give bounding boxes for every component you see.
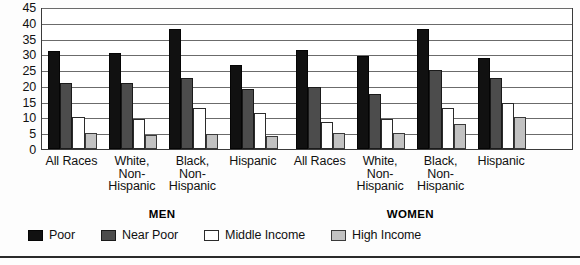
bar [254, 113, 266, 149]
category-label-line: Hispanic [152, 180, 232, 193]
plot-area [41, 8, 573, 150]
bar [393, 133, 405, 149]
bar [109, 53, 121, 149]
bar [454, 124, 466, 149]
bar [296, 50, 308, 149]
bar [478, 58, 490, 150]
bar [181, 78, 193, 149]
bar [442, 108, 454, 149]
bar [206, 134, 218, 149]
bar [333, 133, 345, 149]
legend-swatch-middle-income-icon [204, 230, 219, 241]
bar [357, 56, 369, 149]
legend-label-near-poor: Near Poor [122, 228, 178, 242]
y-axis-tick-label: 15 [10, 96, 36, 109]
y-axis-tick-label: 5 [10, 128, 36, 141]
category-label-line: Hispanic [401, 180, 481, 193]
y-axis-tick-label: 30 [10, 49, 36, 62]
bar [85, 133, 97, 149]
legend-item-middle-income: Middle Income [204, 228, 305, 242]
bar [369, 94, 381, 149]
bar [230, 65, 242, 149]
y-axis-tick-label: 10 [10, 112, 36, 125]
bar [60, 83, 72, 149]
chart-legend: Poor Near Poor Middle Income High Income [28, 228, 447, 242]
legend-label-high-income: High Income [352, 228, 421, 242]
bars-layer [42, 8, 572, 149]
bar [242, 89, 254, 149]
category-label: Hispanic [461, 155, 541, 168]
bar [417, 29, 429, 149]
bar [121, 83, 133, 149]
bar [502, 103, 514, 149]
legend-item-high-income: High Income [331, 228, 421, 242]
bar [514, 117, 526, 149]
bar [133, 119, 145, 149]
legend-item-poor: Poor [28, 228, 75, 242]
bar-chart-figure: 051015202530354045 All RacesWhite,Non-Hi… [0, 0, 580, 265]
bottom-divider [0, 256, 580, 258]
legend-swatch-poor-icon [28, 230, 43, 241]
bar [321, 122, 333, 149]
legend-item-near-poor: Near Poor [101, 228, 178, 242]
legend-swatch-near-poor-icon [101, 230, 116, 241]
bar [72, 117, 84, 149]
y-axis-tick-label: 45 [10, 2, 36, 15]
bar [429, 70, 441, 149]
bar [266, 136, 278, 149]
legend-label-poor: Poor [49, 228, 75, 242]
legend-swatch-high-income-icon [331, 230, 346, 241]
y-axis-tick-label: 25 [10, 65, 36, 78]
y-axis-tick-label: 40 [10, 18, 36, 31]
bar [490, 78, 502, 149]
legend-label-middle-income: Middle Income [225, 228, 305, 242]
y-axis-tick-label: 20 [10, 81, 36, 94]
bar [169, 29, 181, 149]
bar [308, 87, 320, 149]
bar [193, 108, 205, 149]
group-label-women: WOMEN [360, 208, 460, 220]
bar [48, 51, 60, 149]
group-label-men: MEN [112, 208, 212, 220]
category-label-line: Hispanic [461, 155, 541, 168]
bar [381, 119, 393, 149]
bar [145, 135, 157, 149]
y-axis-tick-label: 35 [10, 33, 36, 46]
